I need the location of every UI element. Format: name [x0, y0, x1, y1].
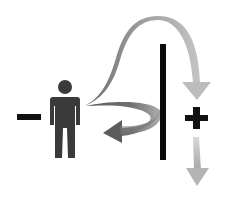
barrier-bar	[160, 44, 166, 160]
minus-sign	[17, 114, 41, 120]
plus-sign	[185, 107, 208, 129]
arc-over-arrow-icon	[84, 16, 211, 106]
deflected-arrow-icon	[86, 102, 161, 143]
down-arrow-icon	[186, 137, 209, 186]
person-icon	[50, 80, 80, 158]
diagram: Person, barrier, and deflected/overcomin…	[0, 0, 228, 206]
